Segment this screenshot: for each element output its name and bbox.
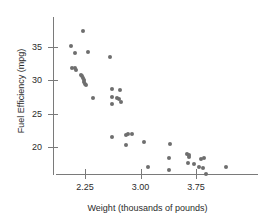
data-point: [167, 168, 171, 172]
scatter-chart: 20253035 2.253.003.75 Fuel Efficiency (m…: [0, 0, 263, 223]
plot-area: [0, 0, 263, 223]
data-point: [84, 83, 88, 87]
data-point: [110, 95, 114, 99]
data-point: [202, 156, 206, 160]
data-point: [110, 87, 114, 91]
data-point: [142, 140, 146, 144]
data-point: [81, 29, 85, 33]
data-point: [130, 132, 134, 136]
y-axis-title: Fuel Efficiency (mpg): [16, 31, 26, 151]
data-point: [187, 155, 191, 159]
x-axis-title: Weight (thousands of pounds): [40, 203, 255, 213]
data-point: [108, 55, 112, 59]
data-point: [110, 102, 114, 106]
data-point: [168, 142, 172, 146]
data-point: [110, 135, 114, 139]
data-point: [224, 165, 228, 169]
data-point: [86, 50, 90, 54]
data-point: [91, 96, 95, 100]
data-point: [186, 161, 190, 165]
data-point: [146, 165, 150, 169]
data-point: [74, 68, 78, 72]
data-point: [118, 88, 122, 92]
data-point: [201, 166, 205, 170]
data-point: [69, 44, 73, 48]
data-point: [119, 100, 123, 104]
data-point: [73, 51, 77, 55]
data-point: [126, 132, 130, 136]
data-point: [124, 143, 128, 147]
data-point: [192, 162, 196, 166]
data-point: [204, 172, 208, 176]
data-point: [167, 156, 171, 160]
